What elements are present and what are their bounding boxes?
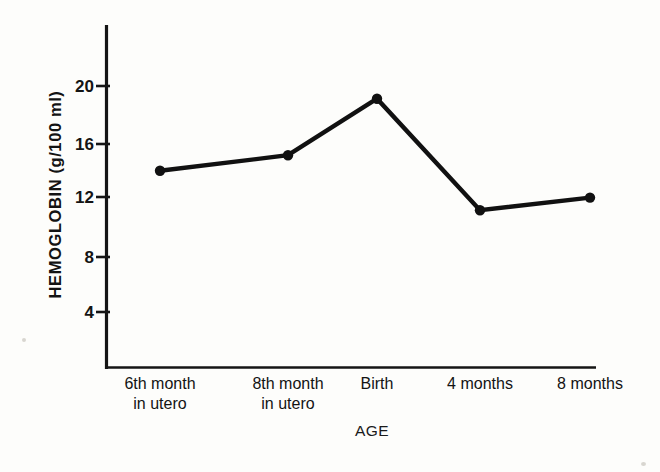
x-category-label-0-line2: in utero (100, 394, 220, 414)
x-category-label-2-line1: Birth (361, 375, 394, 392)
x-category-label-0: 6th month in utero (100, 374, 220, 415)
x-category-label-0-line1: 6th month (124, 375, 195, 392)
x-category-label-3: 4 months (428, 374, 532, 394)
data-point-0 (155, 166, 165, 176)
x-axis-title: AGE (312, 422, 432, 440)
data-point-3 (475, 205, 485, 215)
scan-speck (641, 462, 646, 466)
hemoglobin-age-line-chart: HEMOGLOBIN (g/100 ml) 20 16 12 8 4 6th m… (0, 0, 660, 472)
x-category-label-4: 8 months (538, 374, 642, 394)
data-point-markers (155, 94, 595, 216)
data-point-1 (283, 150, 293, 160)
data-point-4 (585, 192, 595, 202)
x-category-label-1: 8th month in utero (228, 374, 348, 415)
x-category-label-3-line1: 4 months (447, 375, 513, 392)
scan-speck (22, 338, 26, 342)
data-point-2 (372, 94, 382, 104)
x-axis-category-labels: 6th month in utero 8th month in utero Bi… (0, 374, 660, 424)
x-category-label-1-line2: in utero (228, 394, 348, 414)
x-category-label-4-line1: 8 months (557, 375, 623, 392)
data-series-line (160, 99, 590, 211)
x-category-label-2: Birth (342, 374, 412, 394)
x-category-label-1-line1: 8th month (252, 375, 323, 392)
